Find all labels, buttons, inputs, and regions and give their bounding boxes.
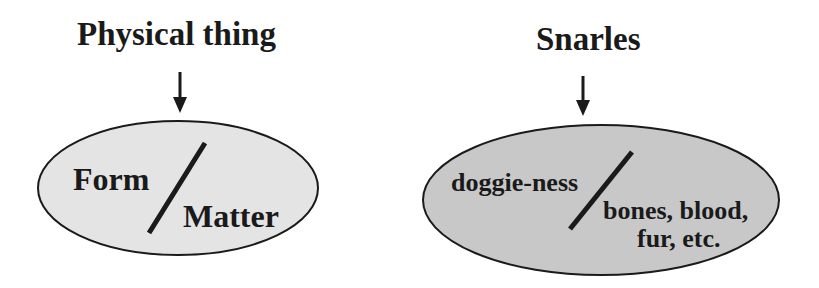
- arrow-head-icon: [576, 100, 590, 116]
- bones-blood-label: bones, blood,: [603, 198, 748, 224]
- form-label: Form: [73, 163, 149, 195]
- snarles-title: Snarles: [536, 23, 641, 56]
- matter-label: Matter: [183, 200, 279, 232]
- arrow-head-icon: [173, 97, 187, 113]
- fur-etc-label: fur, etc.: [637, 226, 721, 252]
- doggie-ness-label: doggie-ness: [451, 170, 578, 196]
- physical-thing-title: Physical thing: [77, 18, 276, 51]
